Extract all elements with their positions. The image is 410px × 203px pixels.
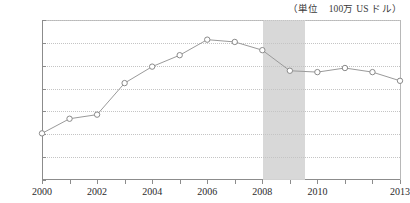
x-axis-tick xyxy=(290,180,291,184)
x-axis-tick xyxy=(400,180,401,184)
x-axis-tick xyxy=(372,180,373,184)
gridline xyxy=(43,111,400,112)
x-axis-tick xyxy=(317,180,318,184)
x-axis-tick-label: 2002 xyxy=(87,186,107,197)
gridline xyxy=(43,20,400,21)
y-axis-tick xyxy=(42,66,46,67)
x-axis-tick xyxy=(97,180,98,184)
gridline xyxy=(43,89,400,90)
gridline xyxy=(43,157,400,158)
y-axis-tick xyxy=(42,157,46,158)
line-chart: （単位 100万 US ドル） 05,00010,00015,00020,000… xyxy=(0,0,410,203)
gridline xyxy=(43,66,400,67)
x-axis-tick xyxy=(207,180,208,184)
x-axis-tick-label: 2000 xyxy=(32,186,52,197)
x-axis-tick xyxy=(262,180,263,184)
x-axis-tick-label: 2013 xyxy=(390,186,410,197)
y-axis-tick xyxy=(42,89,46,90)
x-axis-tick xyxy=(345,180,346,184)
recession-band xyxy=(263,20,304,180)
plot-area xyxy=(42,20,400,180)
gridline xyxy=(43,43,400,44)
y-axis-tick xyxy=(42,43,46,44)
x-axis-tick xyxy=(235,180,236,184)
x-axis-tick-label: 2010 xyxy=(307,186,327,197)
y-axis-tick xyxy=(42,20,46,21)
y-axis-tick xyxy=(42,111,46,112)
x-axis-tick xyxy=(70,180,71,184)
plot-frame-right xyxy=(400,20,401,180)
x-axis-tick-label: 2006 xyxy=(197,186,217,197)
x-axis-tick xyxy=(152,180,153,184)
y-axis-tick xyxy=(42,134,46,135)
x-axis-tick-label: 2004 xyxy=(142,186,162,197)
x-axis-tick xyxy=(125,180,126,184)
x-axis-tick xyxy=(42,180,43,184)
x-axis-tick xyxy=(180,180,181,184)
x-axis-tick-label: 2008 xyxy=(252,186,272,197)
unit-caption: （単位 100万 US ドル） xyxy=(288,1,402,15)
gridline xyxy=(43,134,400,135)
